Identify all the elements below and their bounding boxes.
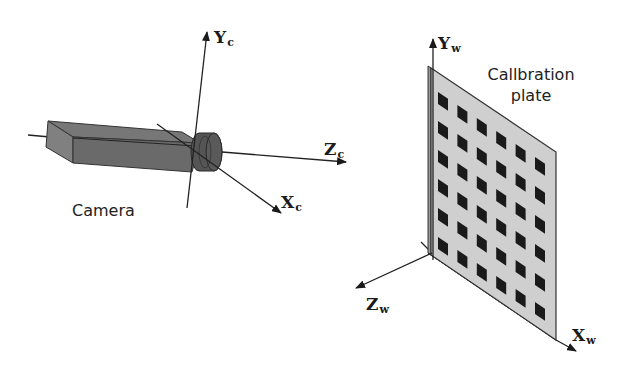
camera-calibration-diagram: Yc Zc Xc Camera Yw Zw Xw: [0, 0, 627, 370]
camera-z-axis-label: Zc: [324, 139, 344, 161]
world-x-axis-label-main: X: [572, 325, 586, 345]
camera-x-axis-label-main: X: [281, 192, 295, 212]
calibration-plate: [431, 68, 556, 340]
camera-group: Yc Zc Xc Camera: [28, 27, 346, 220]
camera-label: Camera: [72, 201, 135, 220]
calibration-plate-label-line2: plate: [511, 86, 552, 105]
camera-z-axis-label-sub: c: [337, 148, 344, 161]
camera-body: [46, 121, 200, 172]
camera-y-axis-label-main: Y: [213, 27, 227, 47]
world-y-axis-label: Yw: [437, 33, 461, 55]
world-z-axis-label-sub: w: [378, 303, 389, 316]
world-z-axis: [356, 253, 432, 288]
camera-y-axis-label-sub: c: [227, 36, 234, 49]
world-x-axis-label: Xw: [572, 325, 596, 347]
world-z-axis-label-main: Z: [366, 294, 378, 314]
calibration-plate-label-line1: Callbration: [487, 65, 574, 84]
camera-x-axis-label-sub: c: [295, 201, 302, 214]
world-z-axis-label: Zw: [366, 294, 389, 316]
camera-x-axis-label: Xc: [281, 192, 302, 214]
camera-y-axis-label: Yc: [213, 27, 234, 49]
world-x-axis-label-sub: w: [585, 334, 596, 347]
calibration-plate-group: Yw Zw Xw Callbration plate: [356, 33, 596, 351]
camera-z-axis-label-main: Z: [324, 139, 336, 159]
world-y-axis-label-sub: w: [450, 42, 461, 55]
world-y-axis-label-main: Y: [437, 33, 451, 53]
camera-y-axis: [187, 32, 207, 208]
